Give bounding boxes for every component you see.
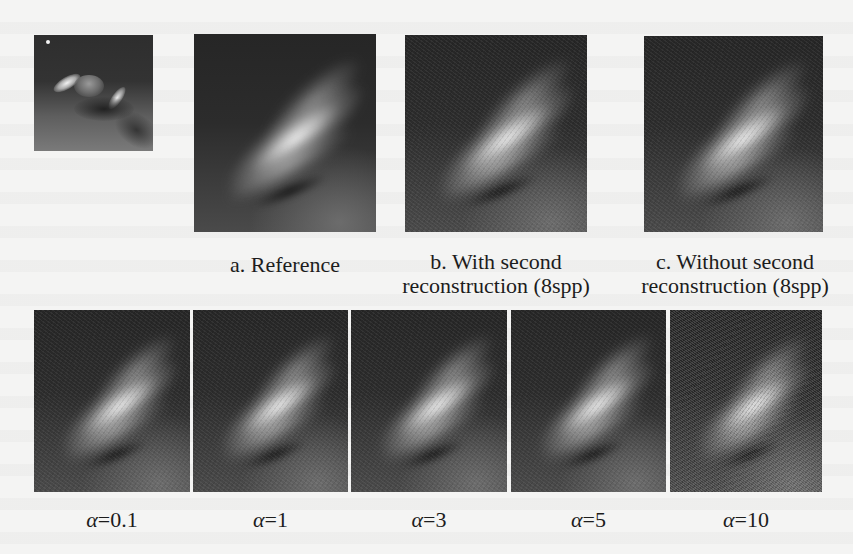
caption-line: reconstruction (8spp) [386,274,606,298]
caption-alpha-3: α=3 [351,508,507,532]
caption-reference: a. Reference [194,253,376,277]
light-source-icon [46,40,50,44]
alpha-symbol: α [571,507,583,532]
image-without-second-reconstruction [644,36,823,232]
caption-line: a. Reference [194,253,376,277]
image-alpha-10 [670,310,822,492]
image-reference [194,34,376,232]
alpha-value: =10 [735,507,769,532]
caption-alpha-1: α=1 [193,508,348,532]
alpha-symbol: α [253,507,265,532]
alpha-symbol: α [723,507,735,532]
image-alpha-5 [511,310,666,492]
caption-line: reconstruction (8spp) [624,274,846,298]
caption-alpha-0-1: α=0.1 [34,508,190,532]
alpha-value: =0.1 [98,507,138,532]
caption-with-second-reconstruction: b. With second reconstruction (8spp) [386,250,606,298]
caption-without-second-reconstruction: c. Without second reconstruction (8spp) [624,250,846,298]
scene-thumbnail [34,35,153,151]
caption-line: b. With second [386,250,606,274]
caption-alpha-10: α=10 [670,508,822,532]
alpha-symbol: α [412,507,424,532]
alpha-symbol: α [86,507,98,532]
image-alpha-3 [351,310,507,492]
alpha-value: =1 [265,507,288,532]
image-with-second-reconstruction [405,35,587,232]
image-alpha-1 [193,310,348,492]
caption-line: c. Without second [624,250,846,274]
caption-alpha-5: α=5 [511,508,666,532]
alpha-value: =5 [583,507,606,532]
image-alpha-0-1 [34,310,190,492]
alpha-value: =3 [423,507,446,532]
